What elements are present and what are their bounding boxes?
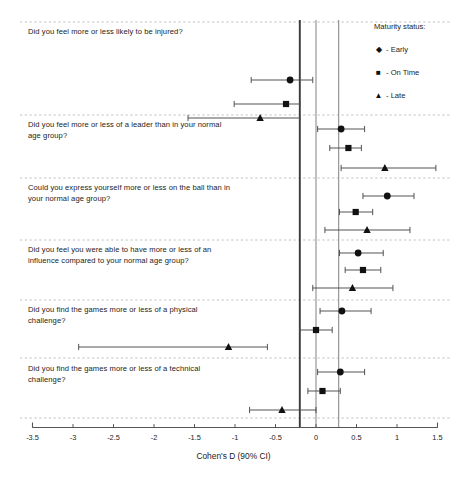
panel-question-4: Did you feel you were able to have more … <box>28 245 278 266</box>
point-marker-early <box>355 250 362 257</box>
point-marker-late <box>225 343 232 350</box>
point-marker-on-time <box>313 327 319 333</box>
legend-item-on-time: ■ - On Time <box>374 68 419 77</box>
forest-plot-figure: Maturity status: ◆ - Early ■ - On Time ▲… <box>0 0 467 481</box>
x-axis-tick-label: -1.5 <box>188 433 201 442</box>
square-marker-icon: ■ <box>374 69 383 77</box>
forest-row <box>339 250 383 257</box>
forest-row <box>330 145 362 151</box>
point-marker-on-time <box>345 145 351 151</box>
forest-row <box>363 193 414 200</box>
forest-row <box>341 164 436 171</box>
panel-question-5: Did you find the games more or less of a… <box>28 305 278 326</box>
x-axis-tick-label: -0.5 <box>269 433 282 442</box>
forest-row <box>308 388 340 394</box>
forest-row <box>325 226 410 233</box>
point-marker-early <box>339 308 346 315</box>
x-axis-title: Cohen's D (90% CI) <box>0 451 467 461</box>
forest-row <box>339 209 372 215</box>
legend-item-late: ▲ - Late <box>374 91 405 100</box>
point-marker-early <box>338 126 345 133</box>
forest-row <box>300 327 332 333</box>
forest-row <box>251 77 313 84</box>
x-axis-tick-label: -2.5 <box>107 433 120 442</box>
point-marker-on-time <box>360 267 366 273</box>
legend-title: Maturity status: <box>374 22 425 31</box>
x-axis-tick-label: 1.5 <box>432 433 442 442</box>
diamond-marker-icon: ◆ <box>374 46 383 54</box>
forest-row <box>250 406 316 413</box>
forest-row <box>320 308 371 315</box>
legend-item-early: ◆ - Early <box>374 45 408 54</box>
x-axis-tick-label: -2 <box>151 433 158 442</box>
forest-row <box>79 343 268 350</box>
forest-row <box>318 369 365 376</box>
point-marker-on-time <box>283 101 289 107</box>
forest-row <box>345 267 381 273</box>
x-axis-tick-label: -3 <box>70 433 77 442</box>
panel-question-3: Could you express yourself more or less … <box>28 183 278 204</box>
point-marker-late <box>349 284 356 291</box>
point-marker-late <box>278 406 285 413</box>
point-marker-early <box>337 369 344 376</box>
point-marker-early <box>384 193 391 200</box>
forest-row <box>313 284 393 291</box>
x-axis-tick-label: 0.5 <box>351 433 361 442</box>
panel-question-2: Did you feel more or less of a leader th… <box>28 120 278 141</box>
point-marker-late <box>381 164 388 171</box>
legend-label-late: - Late <box>386 91 405 100</box>
triangle-marker-icon: ▲ <box>374 92 383 100</box>
point-marker-on-time <box>353 209 359 215</box>
x-axis-tick-label: -3.5 <box>26 433 39 442</box>
forest-row <box>234 101 300 107</box>
x-axis-tick-label: 0 <box>314 433 318 442</box>
panel-question-6: Did you find the games more or less of a… <box>28 364 278 385</box>
point-marker-late <box>363 226 370 233</box>
point-marker-early <box>287 77 294 84</box>
x-axis-tick-label: 1 <box>395 433 399 442</box>
panel-question-1: Did you feel more or less likely to be i… <box>28 27 278 38</box>
point-marker-on-time <box>319 388 325 394</box>
x-axis-tick-label: -1 <box>232 433 239 442</box>
legend-label-on-time: - On Time <box>386 68 419 77</box>
forest-row <box>318 126 365 133</box>
legend-label-early: - Early <box>386 45 408 54</box>
